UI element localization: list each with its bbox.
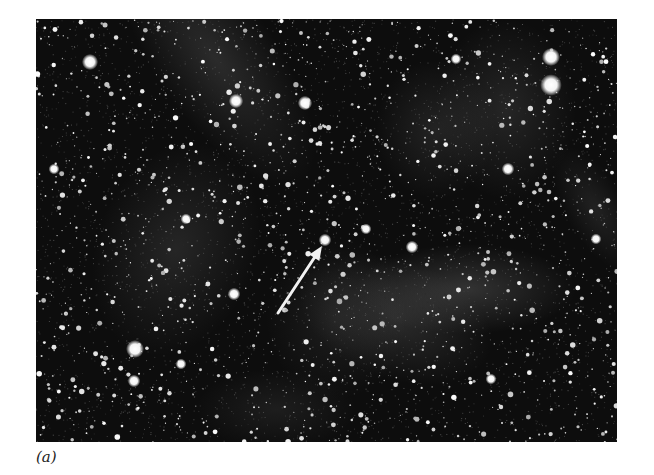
arrow-head-icon [309,246,322,261]
star-field-photograph [36,19,617,442]
panel-label: (a) [36,448,57,466]
pointer-arrow [36,19,617,442]
arrow-shaft [278,258,314,313]
